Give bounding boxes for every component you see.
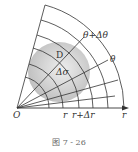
- label-origin: O: [13, 111, 20, 120]
- label-delta-sigma: Δσ: [56, 68, 69, 77]
- label-r: r: [63, 111, 67, 120]
- label-theta: θ: [110, 55, 115, 64]
- label-d: D: [56, 51, 63, 60]
- polar-diagram: [0, 0, 138, 152]
- label-theta-plus: θ+Δθ: [83, 31, 108, 40]
- label-r-plus: r+Δr: [72, 111, 95, 120]
- figure-caption: 图 7 - 26: [0, 136, 138, 147]
- label-axis-r: r: [122, 111, 126, 120]
